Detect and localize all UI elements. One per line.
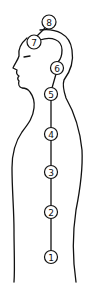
chakra-point-1: 1 [45,251,58,264]
svg-text:8: 8 [46,18,52,28]
chakra-point-8: 8 [42,15,56,29]
chakra-point-5: 5 [45,88,58,101]
chakra-point-3: 3 [45,166,58,179]
svg-text:6: 6 [54,64,60,74]
svg-text:1: 1 [48,253,54,263]
brain-channel [40,38,62,62]
connector-7-8 [37,28,45,36]
chakra-point-4: 4 [45,128,58,141]
chakra-point-6: 6 [51,62,64,75]
svg-text:5: 5 [48,90,54,100]
eyebrow-mark [24,56,30,57]
chakra-point-2: 2 [45,206,58,219]
svg-text:7: 7 [31,38,37,48]
svg-text:3: 3 [48,168,54,178]
connector-6-5 [52,74,56,88]
svg-text:2: 2 [48,208,54,218]
chakra-point-7: 7 [27,35,41,49]
body-profile-diagram: 8 7 6 5 4 3 2 1 [0,0,91,292]
svg-text:4: 4 [48,130,54,140]
front-body-outline [12,38,34,282]
